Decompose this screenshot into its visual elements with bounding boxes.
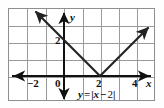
equation-equals: = — [83, 88, 91, 100]
equation-label: y=|x−2| — [78, 88, 115, 100]
x-tick-label-0: 0 — [55, 78, 61, 89]
x-tick-label-4: 4 — [132, 78, 138, 89]
grid-vline — [64, 9, 65, 100]
grid-vline — [83, 9, 84, 100]
grid-hline — [9, 26, 154, 27]
grid-vline — [46, 9, 47, 100]
grid-hline — [9, 60, 154, 61]
y-tick-label-2: 2 — [55, 35, 61, 46]
grid-vline — [119, 9, 120, 100]
x-axis-name: x — [146, 78, 152, 89]
x-tick-label-minus2: −2 — [27, 78, 39, 89]
graph-figure: −2 0 2 4 2 x y y=|x−2| — [0, 0, 164, 108]
y-axis-name: y — [70, 12, 75, 23]
grid-hline — [9, 43, 154, 44]
equation-close-bar: | — [113, 88, 115, 100]
